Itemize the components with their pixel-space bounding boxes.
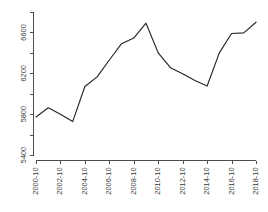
x-axis-tick-label: 2012-10 — [178, 168, 187, 195]
line-chart-plot: 5400580062006600 2000-102002-102004-1020… — [0, 0, 268, 212]
x-axis-tick-label: 2016-10 — [227, 168, 236, 195]
y-axis-tick-label: 5400 — [19, 147, 28, 163]
y-axis-tick-label: 6200 — [19, 65, 28, 81]
x-axis-tick-label: 2004-10 — [80, 168, 89, 195]
x-axis-tick-label: 2006-10 — [104, 168, 113, 195]
data-series-line — [36, 22, 256, 121]
x-axis-tick-labels: 2000-102002-102004-102006-102008-102010-… — [31, 168, 260, 195]
y-axis-tick-labels: 5400580062006600 — [19, 24, 28, 163]
x-axis-tick-label: 2002-10 — [55, 168, 64, 195]
x-axis-group: 2000-102002-102004-102006-102008-102010-… — [31, 161, 260, 195]
y-axis-tick-label: 5800 — [19, 106, 28, 122]
y-axis-tick-label: 6600 — [19, 24, 28, 40]
x-axis-tick-label: 2014-10 — [202, 168, 211, 195]
y-axis-group: 5400580062006600 — [19, 12, 33, 163]
y-axis-tick-marks — [30, 13, 34, 156]
x-axis-tick-label: 2008-10 — [129, 168, 138, 195]
x-axis-tick-marks — [37, 161, 257, 165]
chart-container: 5400580062006600 2000-102002-102004-1020… — [0, 0, 268, 212]
x-axis-tick-label: 2018-10 — [251, 168, 260, 195]
x-axis-tick-label: 2010-10 — [153, 168, 162, 195]
x-axis-tick-label: 2000-10 — [31, 168, 40, 195]
